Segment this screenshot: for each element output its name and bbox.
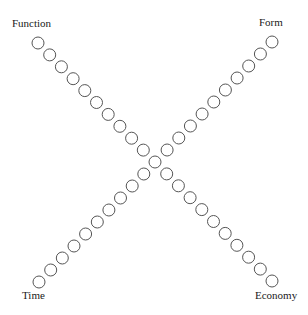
circle-node — [266, 275, 278, 287]
cross-diagram: Function Form Time Economy — [0, 0, 308, 315]
circle-node — [45, 264, 57, 276]
circle-node — [126, 180, 138, 192]
circle-node — [208, 96, 220, 108]
circle-node — [184, 192, 196, 204]
circle-node — [184, 120, 196, 132]
circle-node — [254, 263, 266, 275]
label-function: Function — [12, 17, 52, 29]
circle-node — [161, 168, 173, 180]
circle-node — [44, 49, 56, 61]
circle-node — [126, 132, 138, 144]
circle-node — [67, 73, 79, 85]
circle-node — [138, 168, 150, 180]
circle-node — [137, 144, 149, 156]
circle-node — [196, 108, 208, 120]
circle-node — [32, 37, 44, 49]
circle-node — [55, 61, 67, 73]
circle-node — [173, 132, 185, 144]
circle-node — [161, 144, 173, 156]
circle-node — [114, 120, 126, 132]
center-circle — [149, 156, 161, 168]
circle-node — [68, 240, 80, 252]
circle-node — [266, 36, 278, 48]
circle-node — [231, 72, 243, 84]
label-time: Time — [22, 289, 45, 301]
circle-node — [115, 192, 127, 204]
circle-node — [254, 48, 266, 60]
circle-node — [219, 227, 231, 239]
circle-node — [91, 97, 103, 109]
circle-node — [219, 84, 231, 96]
circle-node — [231, 239, 243, 251]
circle-node — [56, 252, 68, 264]
label-form: Form — [259, 16, 283, 28]
circle-node — [208, 216, 220, 228]
circle-node — [172, 180, 184, 192]
circle-node — [243, 251, 255, 263]
circle-node — [103, 204, 115, 216]
label-economy: Economy — [255, 289, 298, 301]
circle-node — [196, 204, 208, 216]
circle-node — [80, 228, 92, 240]
circle-node — [91, 216, 103, 228]
circle-node — [33, 276, 45, 288]
circle-node — [243, 60, 255, 72]
circle-node — [79, 85, 91, 97]
circle-node — [102, 108, 114, 120]
